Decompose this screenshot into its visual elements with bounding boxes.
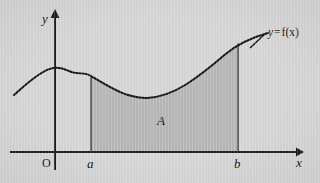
curve-label-fx: f(x) bbox=[282, 26, 299, 38]
upper-bound-label-b: b bbox=[234, 157, 241, 170]
curve-label-equals: = bbox=[273, 26, 282, 38]
lower-bound-label-a: a bbox=[87, 157, 94, 170]
area-label-A: A bbox=[157, 114, 165, 127]
y-axis-label: y bbox=[42, 12, 48, 25]
curve-equation-label: y=f(x) bbox=[268, 27, 299, 39]
y-axis-arrow-icon bbox=[51, 9, 60, 18]
x-axis-label: x bbox=[296, 156, 302, 169]
shaded-area-region bbox=[91, 44, 238, 152]
figure-container: y x O a b A y=f(x) bbox=[0, 0, 320, 183]
origin-label: O bbox=[42, 157, 51, 169]
